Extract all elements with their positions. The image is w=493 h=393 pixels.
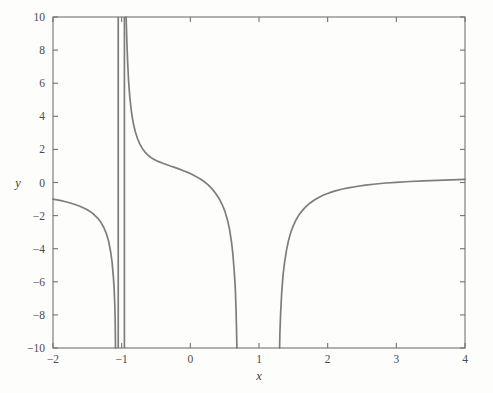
curve-group	[53, 17, 465, 348]
chart-svg: −2−101234 −10−8−6−4−20246810 x y	[0, 0, 493, 393]
y-tick-labels: −10−8−6−4−20246810	[27, 11, 45, 354]
y-tick-label: 4	[39, 110, 45, 122]
curve-branch-right	[280, 179, 465, 348]
x-axis-label: x	[255, 369, 262, 383]
y-tick-label: 2	[39, 143, 45, 155]
x-tick-label: −1	[116, 353, 128, 365]
x-tick-label: 1	[256, 353, 262, 365]
y-tick-label: −4	[33, 243, 45, 255]
y-tick-label: 0	[39, 177, 45, 189]
curve-branch-left	[53, 199, 115, 348]
y-tick-label: −10	[27, 342, 45, 354]
x-tick-labels: −2−101234	[47, 353, 468, 365]
y-tick-label: −8	[33, 309, 45, 321]
x-tick-label: 4	[462, 353, 468, 365]
x-tick-label: 3	[393, 353, 399, 365]
y-axis-label: y	[13, 176, 21, 190]
curve-branch-middle	[126, 17, 237, 348]
x-tick-label: 0	[187, 353, 193, 365]
y-tick-label: −6	[33, 276, 45, 288]
chart-plot-area: −2−101234 −10−8−6−4−20246810 x y	[0, 0, 493, 393]
x-tick-label: 2	[325, 353, 331, 365]
y-tick-label: 6	[39, 77, 45, 89]
y-tick-label: 10	[34, 11, 46, 23]
y-tick-label: −2	[33, 210, 45, 222]
figure-page: −2−101234 −10−8−6−4−20246810 x y	[0, 0, 493, 393]
y-tick-label: 8	[39, 44, 45, 56]
x-tick-label: −2	[47, 353, 59, 365]
